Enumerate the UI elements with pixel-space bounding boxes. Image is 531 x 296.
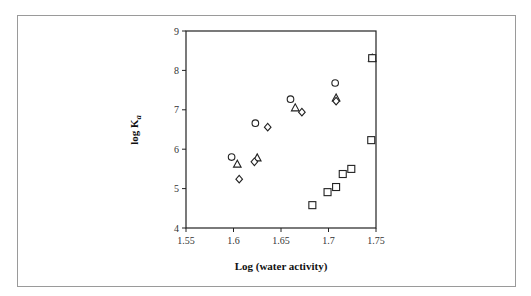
scatter-chart: 4567891.551.61.651.71.75 Log (water acti… <box>0 0 531 296</box>
y-tick-label: 8 <box>174 65 179 76</box>
y-tick-label: 4 <box>174 223 179 234</box>
square-marker <box>369 55 376 62</box>
square-marker <box>368 137 375 144</box>
plot-axes: 4567891.551.61.651.71.75 <box>174 26 385 247</box>
diamond-marker <box>299 108 306 116</box>
diamond-marker <box>236 175 243 183</box>
circle-marker <box>287 96 294 103</box>
square-marker <box>309 202 316 209</box>
x-tick-label: 1.75 <box>367 235 385 246</box>
circle-marker <box>228 154 235 161</box>
square-marker <box>339 171 346 178</box>
square-marker <box>348 165 355 172</box>
circle-marker <box>332 80 339 87</box>
x-tick-label: 1.7 <box>322 235 335 246</box>
y-tick-label: 9 <box>174 26 179 37</box>
x-tick-label: 1.65 <box>272 235 290 246</box>
data-points <box>228 54 376 208</box>
y-axis-title: log Ka <box>128 115 143 144</box>
y-tick-label: 6 <box>174 144 179 155</box>
square-marker <box>333 184 340 191</box>
square-marker <box>324 189 331 196</box>
plot-box <box>186 31 376 228</box>
x-axis-title: Log (water activity) <box>235 260 328 273</box>
y-tick-label: 5 <box>174 183 179 194</box>
x-tick-label: 1.55 <box>177 235 195 246</box>
x-tick-label: 1.6 <box>227 235 240 246</box>
circle-marker <box>252 120 259 127</box>
triangle-marker <box>234 160 242 167</box>
diamond-marker <box>264 123 271 131</box>
y-tick-label: 7 <box>174 104 179 115</box>
triangle-marker <box>291 104 299 111</box>
